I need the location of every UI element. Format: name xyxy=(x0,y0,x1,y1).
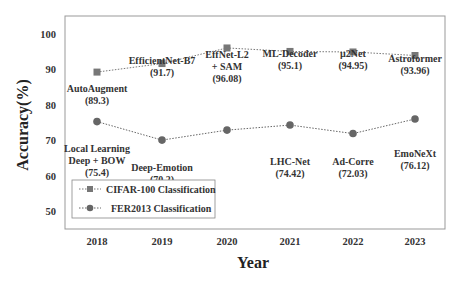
x-axis-ticks: 2018 2019 2020 2021 2022 2023 xyxy=(87,236,426,247)
legend-square-marker-icon xyxy=(87,186,93,192)
legend: CIFAR-100 Classification FER2013 Classif… xyxy=(72,180,216,218)
fer-annotation: LHC-Net(74.42) xyxy=(270,156,311,180)
circle-marker-icon xyxy=(158,136,166,144)
y-axis-ticks: 100 90 80 70 60 50 xyxy=(40,29,56,217)
legend-circle-marker-icon xyxy=(87,205,94,212)
x-tick-2018: 2018 xyxy=(87,236,108,247)
legend-label-cifar: CIFAR-100 Classification xyxy=(106,184,216,195)
circle-marker-icon xyxy=(349,130,357,138)
circle-marker-icon xyxy=(286,121,294,129)
accuracy-line-chart: 100 90 80 70 60 50 2018 2019 2020 2021 2… xyxy=(0,0,470,283)
x-tick-2023: 2023 xyxy=(405,236,426,247)
circle-marker-icon xyxy=(93,118,101,126)
cifar-annotation: µ2Net(94.95) xyxy=(338,48,367,72)
y-tick-80: 80 xyxy=(46,100,57,111)
x-tick-2020: 2020 xyxy=(217,236,238,247)
legend-label-fer: FER2013 Classification xyxy=(111,203,212,214)
circle-marker-icon xyxy=(411,115,419,123)
x-tick-2021: 2021 xyxy=(280,236,301,247)
y-tick-70: 70 xyxy=(46,135,57,146)
x-axis-title: Year xyxy=(237,254,269,271)
square-marker-icon xyxy=(94,69,101,76)
y-axis-title: Accuracy(%) xyxy=(14,79,32,171)
circle-marker-icon xyxy=(223,126,231,134)
y-tick-60: 60 xyxy=(46,171,57,182)
y-tick-100: 100 xyxy=(40,29,56,40)
y-tick-90: 90 xyxy=(46,64,57,75)
y-tick-50: 50 xyxy=(46,206,57,217)
x-tick-2022: 2022 xyxy=(343,236,364,247)
x-tick-2019: 2019 xyxy=(152,236,173,247)
